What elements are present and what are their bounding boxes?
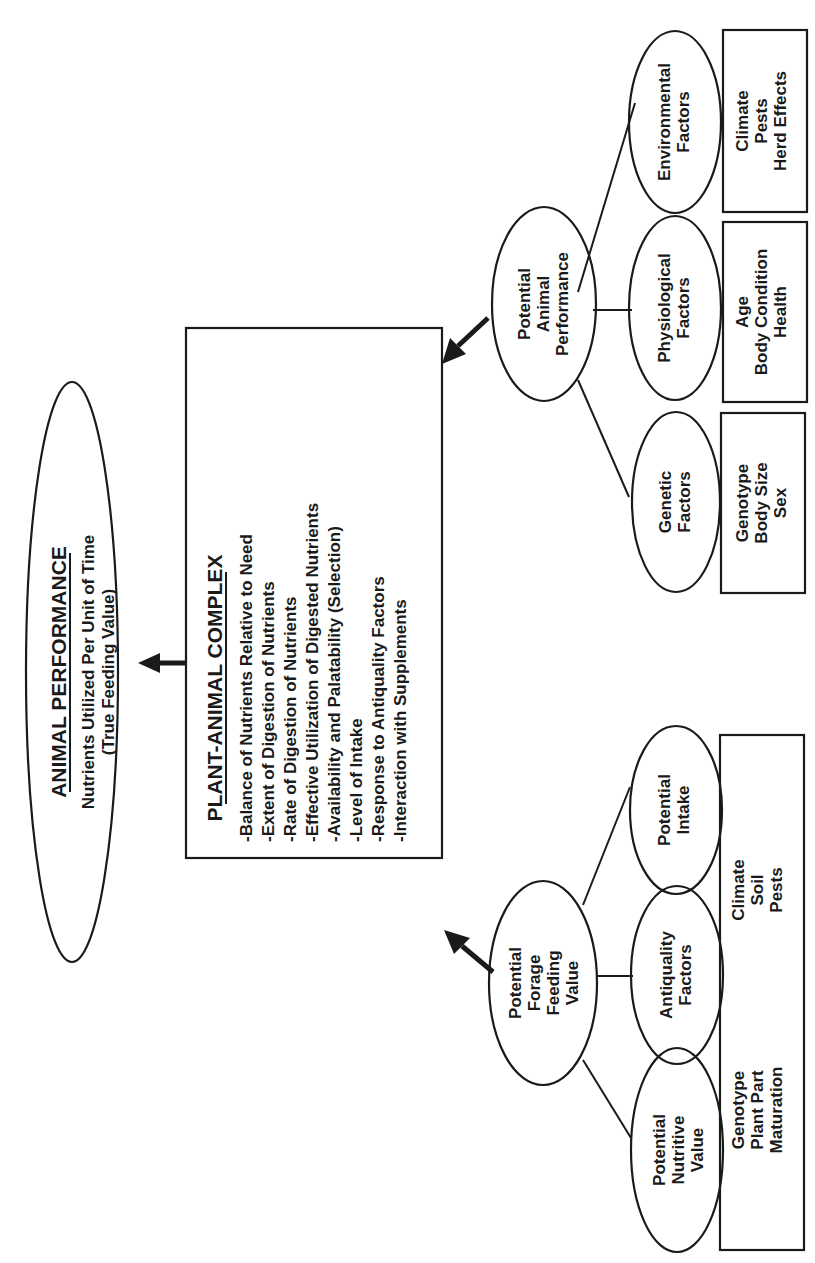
complex-item: -Balance of Nutrients Relative to Need: [237, 534, 256, 842]
connector: [578, 103, 635, 292]
svg-text:Potential: Potential: [650, 1114, 669, 1186]
genetic-factors-node: Genetic Factors: [632, 412, 720, 592]
root-subtitle-1: Nutrients Utilized Per Unit of Time: [79, 535, 98, 810]
complex-item: -Level of Intake: [347, 718, 366, 842]
svg-text:Soil: Soil: [748, 874, 767, 905]
svg-text:Pests: Pests: [767, 867, 786, 912]
complex-title: PLANT-ANIMAL COMPLEX: [203, 555, 226, 822]
animal-branch: Potential Animal Performance Environment…: [492, 30, 807, 593]
environmental-factors-node: Environmental Factors: [629, 31, 721, 213]
svg-text:Value: Value: [688, 1128, 707, 1172]
svg-text:Feeding: Feeding: [544, 950, 563, 1015]
svg-text:Plant Part: Plant Part: [748, 1070, 767, 1150]
svg-text:Animal: Animal: [534, 276, 553, 333]
connector: [583, 1060, 631, 1138]
forage-factors-box: Genotype Plant Part Maturation Climate S…: [720, 735, 804, 1250]
svg-text:Physiological: Physiological: [655, 253, 674, 363]
root-subtitle-2: (True Feeding Value): [99, 589, 118, 755]
svg-text:Health: Health: [771, 286, 790, 338]
connector: [583, 787, 630, 905]
forage-branch: Potential Forage Feeding Value Potential…: [489, 726, 804, 1252]
complex-item: -Response to Antiquality Factors: [369, 576, 388, 842]
svg-text:Factors: Factors: [675, 471, 694, 532]
svg-text:Intake: Intake: [674, 785, 693, 834]
complex-box: PLANT-ANIMAL COMPLEX -Balance of Nutrien…: [186, 328, 442, 858]
svg-text:Environmental: Environmental: [655, 63, 674, 181]
potential-forage-feeding-value-node: Potential Forage Feeding Value: [489, 881, 597, 1085]
genetic-factors-box: Genotype Body Size Sex: [721, 413, 805, 593]
svg-text:Climate: Climate: [729, 859, 748, 920]
svg-text:Genotype: Genotype: [729, 1071, 748, 1149]
svg-text:Antiquality: Antiquality: [657, 931, 676, 1019]
connector: [578, 380, 629, 497]
environmental-factors-box: Climate Pests Herd Effects: [723, 30, 807, 212]
physiological-factors-node: Physiological Factors: [629, 216, 721, 400]
svg-text:Pests: Pests: [752, 98, 771, 143]
complex-item: -Extent of Digestion of Nutrients: [259, 581, 278, 842]
svg-text:Value: Value: [563, 961, 582, 1005]
root-node-animal-performance: ANIMAL PERFORMANCE Nutrients Utilized Pe…: [26, 382, 118, 962]
svg-text:Climate: Climate: [733, 90, 752, 151]
svg-text:Age: Age: [733, 296, 752, 328]
svg-text:Sex: Sex: [771, 487, 790, 518]
svg-text:Maturation: Maturation: [767, 1067, 786, 1154]
svg-text:Performance: Performance: [553, 252, 572, 356]
physiological-factors-box: Age Body Condition Health: [723, 222, 807, 402]
arrow-animal-to-complex: [442, 318, 488, 364]
svg-text:Potential: Potential: [655, 774, 674, 846]
svg-text:Genetic: Genetic: [656, 471, 675, 533]
complex-item: -Rate of Digestion of Nutrients: [281, 596, 300, 842]
svg-text:Factors: Factors: [676, 944, 695, 1005]
complex-item: -Availability and Palatability (Selectio…: [325, 526, 344, 842]
arrow-complex-to-root: [138, 653, 186, 673]
svg-text:Forage: Forage: [525, 955, 544, 1012]
potential-intake-node: Potential Intake: [630, 726, 722, 894]
diagram-canvas: ANIMAL PERFORMANCE Nutrients Utilized Pe…: [0, 0, 815, 1263]
svg-text:Factors: Factors: [674, 91, 693, 152]
svg-text:Herd Effects: Herd Effects: [771, 71, 790, 171]
svg-text:Potential: Potential: [515, 268, 534, 340]
potential-nutritive-value-node: Potential Nutritive Value: [631, 1048, 723, 1252]
svg-text:Potential: Potential: [506, 947, 525, 1019]
svg-text:Body Size: Body Size: [752, 462, 771, 543]
arrow-forage-to-complex: [444, 930, 493, 972]
svg-text:Nutritive: Nutritive: [669, 1116, 688, 1185]
potential-animal-performance-node: Potential Animal Performance: [492, 207, 596, 401]
complex-item: -Interaction with Supplements: [391, 599, 410, 842]
complex-items: -Balance of Nutrients Relative to Need -…: [237, 503, 410, 842]
svg-text:Body Condition: Body Condition: [752, 249, 771, 376]
root-title: ANIMAL PERFORMANCE: [47, 546, 70, 798]
antiquality-factors-node: Antiquality Factors: [631, 886, 723, 1064]
complex-item: -Effective Utilization of Digested Nutri…: [303, 503, 322, 842]
svg-text:Factors: Factors: [674, 277, 693, 338]
svg-text:Genotype: Genotype: [733, 464, 752, 542]
